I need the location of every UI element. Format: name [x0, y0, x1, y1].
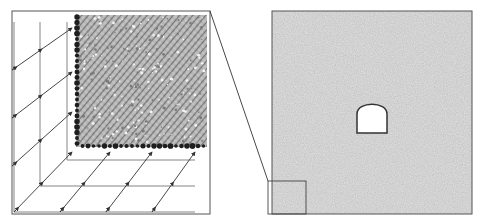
boundary-particle — [75, 70, 80, 75]
boundary-particle — [75, 75, 80, 80]
boundary-particle — [74, 80, 80, 86]
boundary-particle — [74, 25, 80, 31]
boundary-particle — [74, 14, 79, 19]
boundary-particle — [124, 144, 128, 148]
boundary-particle — [146, 144, 150, 148]
figure-canvas — [0, 0, 480, 223]
full-model-panel — [268, 11, 472, 214]
boundary-particle — [92, 144, 96, 148]
boundary-particle — [113, 143, 119, 149]
tunnel-opening — [357, 104, 387, 133]
boundary-particle — [151, 143, 156, 148]
boundary-particle — [74, 20, 79, 25]
boundary-particle — [168, 143, 174, 149]
boundary-particle — [75, 141, 80, 146]
boundary-particle — [74, 47, 79, 52]
boundary-particle — [81, 144, 85, 148]
boundary-particle — [75, 53, 79, 57]
boundary-particle — [74, 130, 79, 135]
boundary-particle — [190, 143, 196, 149]
diagram-figure: Particle model schematic: zoomed corner … — [0, 0, 480, 223]
boundary-particle — [102, 143, 107, 148]
boundary-particle — [97, 144, 101, 148]
boundary-particle — [202, 144, 205, 147]
boundary-particle — [119, 144, 123, 148]
boundary-particle — [179, 144, 184, 149]
boundary-particle — [136, 144, 139, 147]
boundary-particle — [75, 98, 79, 102]
boundary-particle — [75, 114, 80, 119]
zoomed-corner-panel — [12, 11, 210, 214]
boundary-particle — [157, 143, 162, 148]
boundary-particle — [74, 124, 80, 130]
boundary-particle — [75, 86, 80, 91]
boundary-particle — [184, 143, 190, 149]
boundary-particle — [140, 143, 145, 148]
boundary-particle — [75, 64, 80, 69]
boundary-particle — [75, 59, 79, 63]
boundary-particle — [74, 42, 79, 47]
boundary-particle — [130, 144, 134, 148]
boundary-particle — [74, 119, 79, 124]
zoom-connector-line — [210, 11, 268, 181]
boundary-particle — [75, 37, 79, 41]
boundary-particle — [75, 109, 79, 113]
boundary-particle — [75, 136, 79, 140]
boundary-particle — [75, 92, 80, 97]
boundary-particle — [108, 144, 112, 148]
boundary-particle — [196, 144, 201, 149]
boundary-particle — [74, 31, 80, 37]
boundary-particle — [86, 144, 91, 149]
boundary-particle — [163, 144, 168, 149]
boundary-particle — [75, 103, 80, 108]
boundary-particle — [174, 144, 178, 148]
